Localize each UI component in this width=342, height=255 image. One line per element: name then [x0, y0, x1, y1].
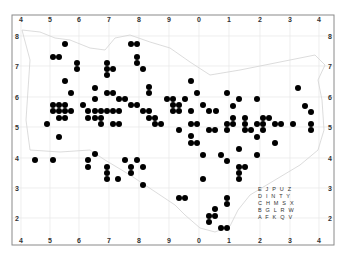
record-dot	[170, 108, 176, 114]
record-dot	[242, 115, 248, 121]
record-dot	[212, 127, 218, 133]
record-dot	[224, 127, 230, 133]
record-dot	[98, 108, 104, 114]
y-tick-label: 3	[15, 185, 19, 192]
record-dot	[176, 195, 182, 201]
record-dot	[236, 170, 242, 176]
record-dot	[230, 121, 236, 127]
record-dot	[236, 176, 242, 182]
y-tick-label: 3	[328, 185, 332, 192]
record-dot	[254, 134, 260, 140]
record-dot	[182, 195, 188, 201]
record-dot	[62, 115, 68, 121]
y-tick-label: 4	[15, 155, 19, 162]
record-dot	[224, 195, 230, 201]
record-dot	[206, 213, 212, 219]
record-dot	[140, 66, 146, 72]
record-dot	[134, 54, 140, 60]
record-dot	[272, 121, 278, 127]
record-dot	[200, 176, 206, 182]
record-dot	[92, 96, 98, 102]
record-dot	[146, 84, 152, 90]
record-dot	[104, 108, 110, 114]
record-dot	[188, 78, 194, 84]
record-dot	[176, 127, 182, 133]
record-dot	[260, 115, 266, 121]
record-dot	[68, 108, 74, 114]
x-tick-label: 4	[19, 237, 23, 244]
x-tick-label: 2	[258, 16, 262, 23]
record-dot	[188, 133, 194, 139]
y-tick-label: 4	[328, 155, 332, 162]
x-tick-label: 7	[107, 237, 111, 244]
record-dot	[110, 121, 116, 127]
record-dot	[218, 225, 224, 231]
record-dot	[213, 108, 219, 114]
record-dot	[50, 54, 56, 60]
record-dot	[224, 121, 230, 127]
x-tick-label: 6	[77, 237, 81, 244]
record-dot	[128, 164, 134, 170]
record-dot	[50, 102, 56, 108]
record-dot	[104, 90, 110, 96]
record-dot	[158, 121, 164, 127]
record-dot	[104, 176, 110, 182]
record-dot	[230, 103, 236, 109]
record-dot	[212, 206, 218, 212]
record-dot	[188, 121, 194, 127]
x-tick-label: 5	[48, 237, 52, 244]
record-dot	[176, 102, 182, 108]
record-dot	[182, 96, 188, 102]
record-dot	[56, 54, 62, 60]
record-dot	[176, 108, 182, 114]
record-dot	[194, 121, 200, 127]
record-dot	[62, 41, 68, 47]
record-dot	[295, 85, 301, 91]
record-dot	[122, 96, 128, 102]
y-tick-label: 2	[15, 215, 19, 222]
record-dot	[115, 176, 121, 182]
x-tick-label: 2	[258, 237, 262, 244]
record-dot	[188, 108, 194, 114]
y-tick-label: 6	[328, 94, 332, 101]
record-dot	[206, 108, 212, 114]
x-tick-label: 7	[107, 16, 111, 23]
record-dot	[200, 152, 206, 158]
record-dot	[188, 140, 194, 146]
record-dot	[242, 121, 248, 127]
tetrad-letter-key: E J P U ZD I N T YC H M S XB G L R WA F …	[258, 186, 295, 220]
record-dot	[134, 102, 140, 108]
record-dot	[242, 164, 248, 170]
record-dot	[146, 115, 152, 121]
record-dot	[194, 90, 200, 96]
record-dot	[140, 108, 146, 114]
record-dot	[302, 103, 308, 109]
y-tick-label: 8	[15, 33, 19, 40]
record-dot	[80, 102, 86, 108]
x-tick-label: 0	[197, 16, 201, 23]
record-dot	[290, 121, 296, 127]
record-dot	[110, 90, 116, 96]
tetrad-key-row: E J P U Z	[258, 186, 292, 192]
record-dot	[140, 182, 146, 188]
x-tick-label: 1	[227, 237, 231, 244]
record-dot	[224, 201, 230, 207]
record-dot	[272, 140, 278, 146]
record-dot	[134, 60, 140, 66]
y-tick-label: 5	[328, 124, 332, 131]
x-tick-label: 3	[288, 237, 292, 244]
x-tick-label: 4	[317, 16, 321, 23]
record-dot	[260, 121, 266, 127]
record-dot	[110, 108, 116, 114]
record-dot	[152, 121, 158, 127]
x-tick-label: 9	[167, 16, 171, 23]
record-dot	[62, 108, 68, 114]
y-tick-label: 7	[328, 63, 332, 70]
record-dot	[98, 115, 104, 121]
record-dot	[218, 152, 224, 158]
record-dot	[134, 41, 140, 47]
record-dot	[92, 108, 98, 114]
record-dot	[146, 108, 152, 114]
record-dot	[224, 90, 230, 96]
record-dot	[194, 140, 200, 146]
